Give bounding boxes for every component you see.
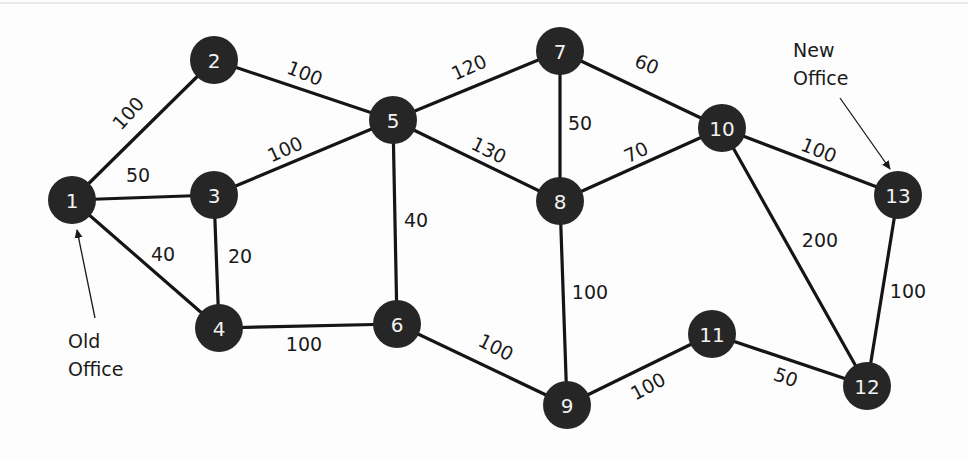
node-label: 8: [554, 190, 567, 214]
node-9: 9: [543, 381, 591, 429]
node-12: 12: [843, 362, 891, 410]
node-6: 6: [373, 300, 421, 348]
new-office-label-line1: New: [793, 39, 834, 61]
node-2: 2: [190, 36, 238, 84]
node-8: 8: [536, 177, 584, 225]
old-office-label-line1: Old: [68, 330, 100, 352]
edge-weight-11-12: 50: [771, 363, 801, 392]
edge-weight-10-13: 100: [798, 133, 840, 167]
node-label: 4: [213, 317, 226, 341]
node-3: 3: [190, 171, 238, 219]
node-label: 2: [208, 49, 221, 73]
node-label: 12: [854, 375, 879, 399]
edge-weight-3-5: 100: [264, 132, 306, 167]
edge-1-4: [72, 200, 219, 328]
edge-weights-layer: 1005040100100201004012013050607010010010…: [108, 49, 926, 404]
node-label: 13: [885, 184, 910, 208]
edge-weight-8-9: 100: [572, 281, 608, 303]
edge-weight-5-8: 130: [468, 132, 510, 168]
node-label: 1: [66, 189, 79, 213]
edge-weight-4-6: 100: [286, 333, 322, 355]
edge-line: [722, 128, 867, 386]
node-7: 7: [536, 27, 584, 75]
node-11: 11: [688, 310, 736, 358]
edge-line: [219, 324, 397, 328]
edge-weight-7-10: 60: [632, 49, 663, 78]
edge-weight-3-4: 20: [228, 245, 252, 267]
node-1: 1: [48, 176, 96, 224]
edge-weight-5-7: 120: [448, 50, 490, 85]
old-office-arrow-icon: [77, 230, 95, 318]
node-4: 4: [195, 304, 243, 352]
old-office-label-line2: Office: [68, 358, 123, 380]
edge-line: [72, 200, 219, 328]
node-label: 5: [387, 109, 400, 133]
edge-4-6: [219, 324, 397, 328]
edge-10-12: [722, 128, 867, 386]
node-label: 9: [561, 394, 574, 418]
node-label: 6: [391, 313, 404, 337]
node-13: 13: [874, 171, 922, 219]
edge-line: [560, 201, 567, 405]
edge-weight-7-8: 50: [568, 112, 592, 134]
edge-8-9: [560, 201, 567, 405]
edge-weight-13-12: 100: [890, 280, 926, 302]
node-label: 10: [709, 117, 734, 141]
edge-line: [393, 120, 397, 324]
edge-weight-1-4: 40: [151, 243, 175, 265]
edge-5-6: [393, 120, 397, 324]
edge-line: [214, 120, 393, 195]
edge-weight-10-12: 200: [802, 229, 838, 251]
old-office-annotation: Old Office: [68, 230, 123, 380]
node-label: 7: [554, 40, 567, 64]
edge-weight-6-9: 100: [475, 329, 517, 365]
new-office-arrow-icon: [840, 98, 890, 169]
edge-weight-1-3: 50: [126, 164, 150, 186]
node-10: 10: [698, 104, 746, 152]
new-office-label-line2: Office: [793, 67, 848, 89]
edge-weight-1-2: 100: [108, 92, 149, 134]
edge-3-5: [214, 120, 393, 195]
node-label: 11: [699, 323, 724, 347]
node-label: 3: [208, 184, 221, 208]
network-diagram: 1005040100100201004012013050607010010010…: [0, 0, 968, 459]
node-5: 5: [369, 96, 417, 144]
edge-weight-5-6: 40: [404, 209, 428, 231]
